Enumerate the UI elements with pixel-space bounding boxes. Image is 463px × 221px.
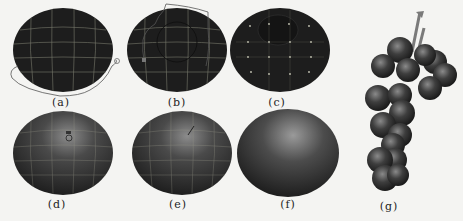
panel-a-sphere	[11, 8, 120, 96]
panel-label-a: (a)	[46, 96, 76, 109]
figure-canvas	[0, 0, 463, 221]
panel-f-sphere	[237, 109, 339, 197]
panel-label-f: (f)	[273, 198, 303, 211]
panel-label-g: (g)	[374, 200, 404, 213]
cursor-icon	[142, 58, 146, 62]
panel-e-sphere	[132, 111, 232, 195]
grape-cluster	[365, 37, 457, 191]
panel-label-b: (b)	[162, 96, 192, 109]
panel-c-sphere	[230, 8, 330, 92]
panel-label-d: (d)	[42, 198, 72, 211]
lasso-cursor-icon	[115, 59, 120, 64]
panel-label-e: (e)	[163, 198, 193, 211]
panel-g-grapes	[365, 11, 457, 191]
panel-b-sphere	[127, 4, 227, 92]
panel-label-c: (c)	[262, 96, 292, 109]
panel-d-sphere	[13, 111, 113, 195]
